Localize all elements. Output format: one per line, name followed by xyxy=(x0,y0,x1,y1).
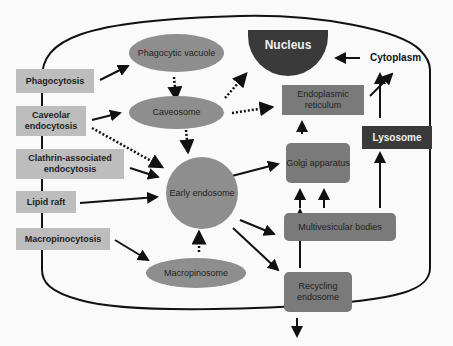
pathway-lipid-raft: Lipid raft xyxy=(16,191,76,213)
pathway-clathrin-associated-endocytosis: Clathrin-associated endocytosis xyxy=(16,149,124,179)
early-endosome: Early endosome xyxy=(166,157,238,229)
cytoplasm-label: Cytoplasm xyxy=(370,52,421,63)
recycling-endosome: Recycling endosome xyxy=(284,272,352,312)
phagocytic-vacuole: Phagocytic vacuole xyxy=(129,34,224,72)
pathway-phagocytosis: Phagocytosis xyxy=(16,69,94,93)
multivesicular-bodies: Multivesicular bodies xyxy=(284,213,396,241)
macropinosome: Macropinosome xyxy=(146,258,246,288)
pathway-macropinocytosis: Macropinocytosis xyxy=(16,228,110,250)
endoplasmic-reticulum: Endoplasmic reticulum xyxy=(282,85,364,115)
caveosome: Caveosome xyxy=(129,96,224,129)
golgi-apparatus: Golgi apparatus xyxy=(286,143,350,183)
pathway-caveolar-endocytosis: Caveolar endocytosis xyxy=(16,106,86,136)
lysosome: Lysosome xyxy=(362,126,432,149)
endocytosis-diagram: Phagocytosis Caveolar endocytosis Clathr… xyxy=(0,0,453,346)
